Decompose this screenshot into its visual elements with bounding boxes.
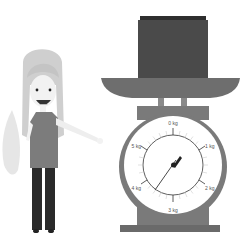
- leaf-shape: [2, 110, 20, 175]
- girl-figure: [22, 49, 103, 233]
- dial-label-0kg: 0 kg: [168, 120, 178, 126]
- dial-pivot: [171, 163, 176, 168]
- dial-label-1kg: 1 kg: [205, 143, 215, 149]
- right-foot: [48, 229, 54, 233]
- dial-label-4kg: 4 kg: [132, 185, 142, 191]
- left-eye: [36, 89, 39, 92]
- shirt: [30, 112, 58, 168]
- scale-base: [120, 225, 220, 232]
- right-eye: [49, 89, 52, 92]
- scale-post-left: [158, 98, 164, 106]
- left-foot: [33, 229, 39, 233]
- box: [138, 20, 208, 78]
- right-leg: [45, 168, 55, 230]
- illustration-canvas: 0 kg 1 kg 2 kg 3 kg 4 kg 5 kg: [0, 0, 246, 246]
- dial-label-2kg: 2 kg: [205, 185, 215, 191]
- kitchen-scale: 0 kg 1 kg 2 kg 3 kg 4 kg 5 kg: [101, 16, 240, 232]
- neck: [40, 105, 46, 112]
- scale-pan: [101, 78, 240, 98]
- dial-label-3kg: 3 kg: [168, 207, 178, 213]
- dial-label-5kg: 5 kg: [132, 143, 142, 149]
- pointing-hand: [97, 138, 103, 144]
- scale-post-right: [181, 98, 187, 106]
- left-leg: [32, 168, 42, 230]
